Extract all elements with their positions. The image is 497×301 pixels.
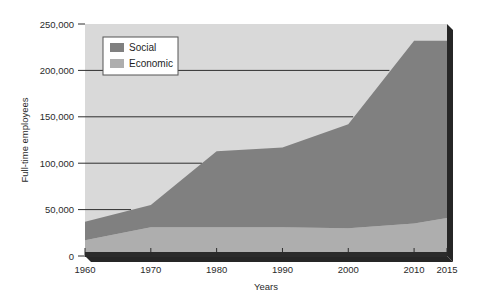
y-axis-tick-label: 0 [69,251,74,262]
y-axis-tick-label: 200,000 [40,65,74,76]
x-axis-tick-label: 1960 [74,264,95,275]
x-axis-tick-label: 2000 [338,264,359,275]
y-axis-ticks [78,24,85,256]
y-axis-tick-labels: 050,000100,000150,000200,000250,000 [40,19,74,262]
x-axis-tick-label: 2010 [404,264,425,275]
chart-shadow-right [447,24,453,262]
x-axis-tick-labels: 1960197019801990200020102015 [74,264,457,275]
x-axis-bar [85,252,447,257]
legend-label-social: Social [129,42,156,53]
y-axis-title: Full-time employees [19,97,30,182]
y-axis-tick-label: 50,000 [45,204,74,215]
legend-swatch-economic [110,59,124,68]
y-axis-tick-label: 250,000 [40,19,74,30]
y-axis-tick-label: 150,000 [40,111,74,122]
x-axis-tick-label: 1970 [140,264,161,275]
x-axis-title: Years [254,281,278,292]
legend-swatch-social [110,43,124,52]
chart-canvas: 050,000100,000150,000200,000250,00019601… [0,0,497,301]
legend-label-economic: Economic [129,58,173,69]
y-axis-tick-label: 100,000 [40,158,74,169]
chart-legend: Social Economic [103,37,178,75]
x-axis-tick-label: 1980 [206,264,227,275]
x-axis-tick-label: 1990 [272,264,293,275]
area-chart: 050,000100,000150,000200,000250,00019601… [0,0,497,301]
x-axis-tick-label: 2015 [436,264,457,275]
